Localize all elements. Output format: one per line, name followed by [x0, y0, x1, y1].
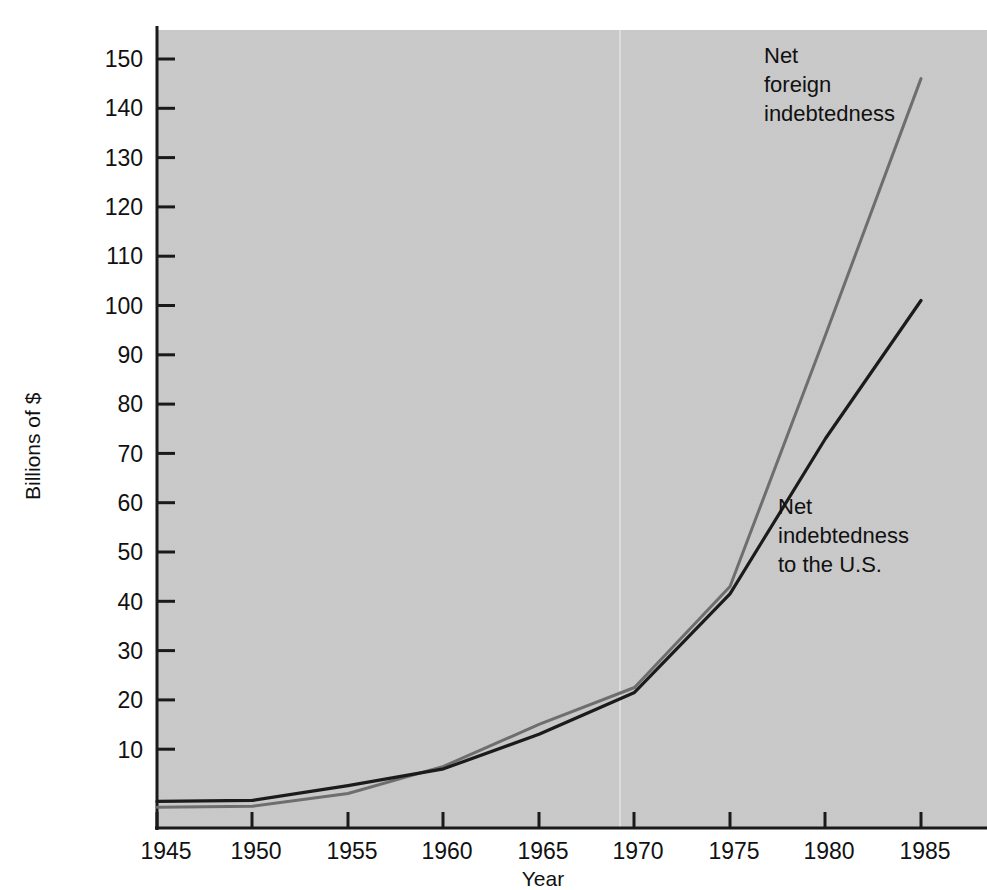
y-tick-label-40: 40: [117, 589, 143, 615]
y-tick-label-140: 140: [105, 95, 143, 121]
x-tick-label-1945: 1945: [140, 838, 191, 864]
plot-area-grain: [157, 30, 987, 828]
x-tick-label-1980: 1980: [803, 838, 854, 864]
y-tick-label-80: 80: [117, 391, 143, 417]
y-tick-label-20: 20: [117, 687, 143, 713]
y-tick-label-30: 30: [117, 638, 143, 664]
y-axis-title: Billions of $: [21, 392, 44, 500]
annotation-foreign-line-1: Net: [764, 43, 798, 68]
line-chart-canvas: 150 140 130 120 110 100 90 80 70 60 50 4…: [0, 0, 987, 890]
annotation-foreign-line-3: indebtedness: [764, 101, 895, 126]
annotation-us-line-1: Net: [778, 494, 812, 519]
x-axis-tick-labels: 1945 1950 1955 1960 1965 1970 1975 1980 …: [140, 838, 950, 864]
annotation-us-line-2: indebtedness: [778, 523, 909, 548]
chart-figure: 150 140 130 120 110 100 90 80 70 60 50 4…: [0, 0, 987, 890]
x-tick-label-1970: 1970: [612, 838, 663, 864]
annotation-foreign-line-2: foreign: [764, 72, 831, 97]
x-axis-title: Year: [522, 867, 564, 890]
y-tick-label-120: 120: [105, 194, 143, 220]
x-tick-label-1955: 1955: [326, 838, 377, 864]
y-tick-label-90: 90: [117, 342, 143, 368]
y-tick-label-70: 70: [117, 441, 143, 467]
annotation-us-line-3: to the U.S.: [778, 552, 882, 577]
y-tick-label-150: 150: [105, 46, 143, 72]
x-tick-label-1950: 1950: [230, 838, 281, 864]
x-tick-label-1965: 1965: [517, 838, 568, 864]
y-tick-label-110: 110: [106, 243, 143, 269]
x-tick-label-1960: 1960: [421, 838, 472, 864]
y-tick-label-130: 130: [105, 145, 143, 171]
y-tick-label-100: 100: [105, 293, 143, 319]
y-tick-label-50: 50: [117, 539, 143, 565]
x-tick-label-1985: 1985: [899, 838, 950, 864]
x-tick-label-1975: 1975: [708, 838, 759, 864]
y-tick-label-60: 60: [117, 490, 143, 516]
y-tick-label-10: 10: [117, 737, 143, 763]
